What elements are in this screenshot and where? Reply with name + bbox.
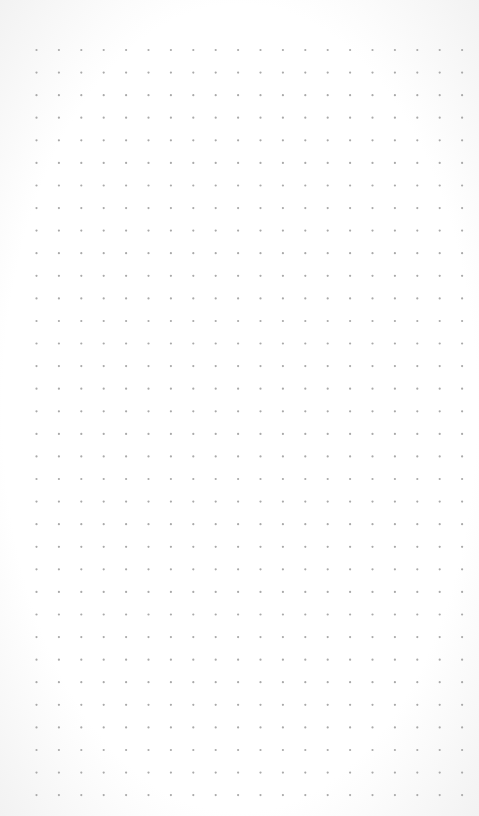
grid-dot <box>58 49 60 51</box>
grid-dot <box>304 523 306 525</box>
grid-dot <box>58 591 60 593</box>
grid-dot <box>327 568 329 570</box>
grid-dot <box>394 659 396 661</box>
grid-dot <box>461 207 463 209</box>
grid-dot <box>80 726 82 728</box>
grid-dot <box>125 72 127 74</box>
grid-dot <box>349 681 351 683</box>
grid-dot <box>394 433 396 435</box>
grid-dot <box>58 184 60 186</box>
grid-dot <box>125 749 127 751</box>
grid-dot <box>125 478 127 480</box>
grid-dot <box>304 117 306 119</box>
grid-dot <box>192 230 194 232</box>
grid-dot <box>192 117 194 119</box>
grid-dot <box>259 275 261 277</box>
grid-dot <box>304 613 306 615</box>
grid-dot <box>327 546 329 548</box>
grid-dot <box>461 230 463 232</box>
grid-dot <box>349 94 351 96</box>
grid-dot <box>215 749 217 751</box>
grid-dot <box>147 320 149 322</box>
grid-dot <box>416 49 418 51</box>
grid-dot <box>461 523 463 525</box>
grid-dot <box>237 410 239 412</box>
grid-dot <box>103 568 105 570</box>
grid-dot <box>80 546 82 548</box>
grid-dot <box>170 162 172 164</box>
grid-dot <box>147 139 149 141</box>
grid-dot <box>439 139 441 141</box>
grid-dot <box>349 794 351 796</box>
grid-dot <box>192 749 194 751</box>
grid-dot <box>215 478 217 480</box>
grid-dot <box>259 523 261 525</box>
grid-dot <box>192 365 194 367</box>
grid-dot <box>327 433 329 435</box>
grid-dot <box>125 117 127 119</box>
grid-dot <box>394 342 396 344</box>
grid-dot <box>416 94 418 96</box>
grid-dot <box>304 546 306 548</box>
grid-dot <box>192 162 194 164</box>
grid-dot <box>103 681 105 683</box>
grid-dot <box>349 184 351 186</box>
grid-dot <box>259 342 261 344</box>
grid-dot <box>282 388 284 390</box>
grid-dot <box>304 275 306 277</box>
grid-dot <box>416 297 418 299</box>
dot-grid-canvas[interactable] <box>0 0 479 816</box>
grid-dot <box>170 772 172 774</box>
grid-dot <box>327 636 329 638</box>
grid-dot <box>35 388 37 390</box>
grid-dot <box>371 94 373 96</box>
grid-dot <box>371 139 373 141</box>
grid-dot <box>192 523 194 525</box>
grid-dot <box>58 501 60 503</box>
grid-dot <box>461 388 463 390</box>
grid-dot <box>170 591 172 593</box>
grid-dot <box>80 749 82 751</box>
grid-dot <box>416 275 418 277</box>
grid-dot <box>192 275 194 277</box>
grid-dot <box>170 139 172 141</box>
grid-dot <box>192 478 194 480</box>
grid-dot <box>192 636 194 638</box>
grid-dot <box>170 681 172 683</box>
grid-dot <box>103 659 105 661</box>
grid-dot <box>439 591 441 593</box>
grid-dot <box>439 749 441 751</box>
grid-dot <box>394 117 396 119</box>
grid-dot <box>103 230 105 232</box>
grid-dot <box>371 478 373 480</box>
grid-dot <box>58 704 60 706</box>
grid-dot <box>103 117 105 119</box>
grid-dot <box>394 749 396 751</box>
grid-dot <box>58 252 60 254</box>
grid-dot <box>237 139 239 141</box>
grid-dot <box>147 49 149 51</box>
grid-dot <box>304 252 306 254</box>
grid-dot <box>282 455 284 457</box>
grid-dot <box>461 613 463 615</box>
grid-dot <box>371 117 373 119</box>
grid-dot <box>259 365 261 367</box>
grid-dot <box>394 636 396 638</box>
grid-dot <box>170 659 172 661</box>
grid-dot <box>259 681 261 683</box>
grid-dot <box>439 636 441 638</box>
grid-dot <box>394 546 396 548</box>
grid-dot <box>416 252 418 254</box>
grid-dot <box>170 478 172 480</box>
grid-dot <box>327 501 329 503</box>
grid-dot <box>371 568 373 570</box>
grid-dot <box>170 523 172 525</box>
grid-dot <box>304 342 306 344</box>
grid-dot <box>259 659 261 661</box>
grid-dot <box>259 72 261 74</box>
grid-dot <box>349 410 351 412</box>
grid-dot <box>147 546 149 548</box>
grid-dot <box>103 184 105 186</box>
grid-dot <box>461 681 463 683</box>
grid-dot <box>304 726 306 728</box>
